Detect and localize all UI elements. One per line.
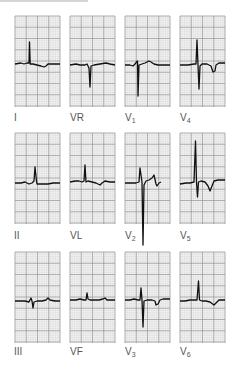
ecg-panel-vf — [70, 252, 115, 343]
lead-label-vr: VR — [70, 113, 84, 123]
lead-label-v2: V2 — [125, 231, 136, 244]
lead-label-ii: II — [14, 231, 20, 241]
ecg-panel-v3 — [125, 252, 170, 343]
lead-name: I — [14, 112, 17, 123]
ecg-panel-v4 — [180, 16, 225, 107]
lead-name: III — [14, 346, 22, 357]
ecg-panel-ii — [15, 133, 60, 224]
ecg-panel-v1 — [125, 16, 170, 107]
lead-name: V — [180, 346, 187, 357]
lead-name: V — [180, 230, 187, 241]
lead-label-v4: V4 — [180, 113, 191, 126]
ecg-grid — [70, 16, 115, 107]
lead-name: VR — [70, 112, 84, 123]
ecg-panel-vl — [70, 133, 115, 224]
lead-name: V — [180, 112, 187, 123]
lead-name: VF — [70, 346, 83, 357]
ecg-grid — [125, 16, 170, 107]
lead-subscript: 1 — [132, 117, 136, 124]
ecg-panel-i — [15, 16, 60, 107]
ecg-grid — [70, 133, 115, 224]
ecg-panel-v5 — [180, 133, 225, 224]
ecg-grid — [70, 252, 115, 343]
lead-label-i: I — [14, 113, 17, 123]
ecg-grid — [180, 16, 225, 107]
ecg-grid — [15, 252, 60, 343]
lead-label-v6: V6 — [180, 347, 191, 360]
top-rule — [0, 0, 88, 2]
lead-subscript: 2 — [132, 235, 136, 242]
ecg-grid — [125, 133, 170, 224]
lead-label-vf: VF — [70, 347, 83, 357]
ecg-panel-v2 — [125, 133, 170, 224]
ecg-grid — [15, 133, 60, 224]
lead-name: II — [14, 230, 20, 241]
lead-subscript: 3 — [132, 351, 136, 358]
ecg-panel-v6 — [180, 252, 225, 343]
ecg-panel-vr — [70, 16, 115, 107]
lead-subscript: 4 — [187, 117, 191, 124]
ecg-grid — [15, 16, 60, 107]
ecg-grid — [125, 252, 170, 343]
ecg-grid — [180, 133, 225, 224]
ecg-grid — [180, 252, 225, 343]
lead-name: V — [125, 346, 132, 357]
lead-name: VL — [70, 230, 82, 241]
lead-label-v1: V1 — [125, 113, 136, 126]
lead-name: V — [125, 112, 132, 123]
lead-label-iii: III — [14, 347, 22, 357]
lead-label-v3: V3 — [125, 347, 136, 360]
ecg-panel-iii — [15, 252, 60, 343]
lead-subscript: 5 — [187, 235, 191, 242]
lead-name: V — [125, 230, 132, 241]
lead-label-v5: V5 — [180, 231, 191, 244]
lead-subscript: 6 — [187, 351, 191, 358]
lead-label-vl: VL — [70, 231, 82, 241]
